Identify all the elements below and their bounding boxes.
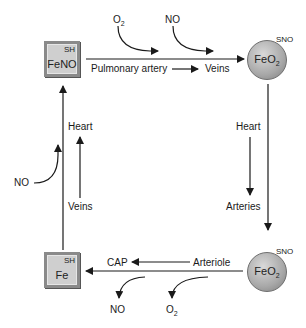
sh-label: SH (64, 45, 75, 54)
feo2-sphere-top: FeO2 (247, 40, 287, 80)
feo2-sphere-bottom: FeO2 (247, 252, 287, 292)
arteries-label: Arteries (226, 201, 260, 213)
no-input-label: NO (165, 14, 180, 26)
sh-label-bottom: SH (64, 256, 75, 265)
feno-box: SH FeNO (44, 41, 80, 77)
cap-label: CAP (107, 257, 128, 269)
fe-label: Fe (47, 269, 77, 281)
o2-input-label: O2 (113, 14, 125, 30)
sno-label-top: SNO (276, 34, 293, 46)
pulmonary-artery-label: Pulmonary artery (91, 63, 167, 75)
feo2-label-top: FeO2 (248, 53, 286, 67)
fe-box: SH Fe (44, 252, 80, 288)
heart-label-left: Heart (68, 121, 92, 133)
arteriole-label: Arteriole (193, 257, 230, 269)
no-output-label: NO (110, 304, 125, 316)
feo2-label-bottom: FeO2 (248, 265, 286, 279)
veins-label-left: Veins (68, 201, 92, 213)
veins-label-top: Veins (205, 63, 229, 75)
no-left-input-label: NO (14, 177, 29, 189)
heart-label-right: Heart (236, 121, 260, 133)
o2-output-label: O2 (166, 304, 178, 320)
sno-label-bottom: SNO (276, 246, 293, 258)
feno-label: FeNO (47, 58, 77, 70)
